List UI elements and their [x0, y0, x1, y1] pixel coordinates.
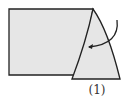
step-label: (1): [82, 83, 112, 97]
